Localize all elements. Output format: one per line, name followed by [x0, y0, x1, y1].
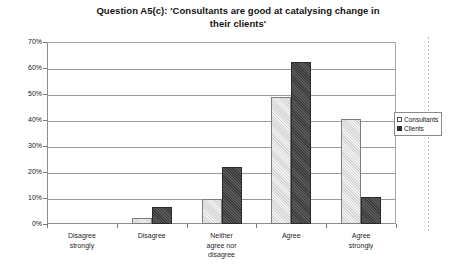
legend-item-consultants[interactable]: Consultants [397, 115, 438, 124]
chart-title-line-1: Question A5(c): 'Consultants are good at… [96, 5, 379, 16]
x-axis-category-label-line: strongly [349, 242, 374, 249]
chart-legend: ConsultantsClients [394, 112, 442, 136]
x-axis-tick-mark [117, 224, 118, 228]
legend-label: Clients [404, 125, 424, 133]
y-axis-tick-mark [43, 146, 47, 147]
bar-consultants-2 [202, 199, 222, 224]
bar-consultants-3 [271, 97, 291, 224]
chart-title: Question A5(c): 'Consultants are good at… [52, 4, 424, 30]
x-axis-category-label-line: Agree [352, 232, 371, 239]
gridline [48, 69, 395, 70]
y-axis-tick-mark [43, 68, 47, 69]
bar-clients-1 [152, 207, 172, 224]
x-axis-category-label: Agreestrongly [326, 231, 396, 250]
x-axis-tick-mark [396, 224, 397, 228]
y-axis-tick-mark [43, 172, 47, 173]
y-axis-tick-label: 0% [2, 220, 42, 228]
chart-figure: Question A5(c): 'Consultants are good at… [0, 0, 476, 273]
x-axis-category-label: Neitheragree nordisagree [187, 231, 257, 260]
y-axis-tick-mark [43, 94, 47, 95]
y-axis-tick-mark [43, 198, 47, 199]
x-axis-category-label: Disagree [117, 231, 187, 241]
y-axis-tick-label: 60% [2, 64, 42, 72]
x-axis-category-label: Agree [256, 231, 326, 241]
gridline [48, 95, 395, 96]
y-axis-tick-label: 30% [2, 142, 42, 150]
x-axis-category-label-line: Neither [210, 232, 233, 239]
x-axis-category-label: Disagreestrongly [47, 231, 117, 250]
y-axis-tick-label: 50% [2, 90, 42, 98]
legend-swatch-consultants-icon [397, 117, 402, 122]
x-axis-category-label-line: disagree [208, 251, 235, 258]
bar-clients-3 [291, 62, 311, 225]
y-axis-tick-mark [43, 42, 47, 43]
x-axis-category-label-line: Disagree [138, 232, 166, 239]
y-axis-tick-label: 70% [2, 38, 42, 46]
bar-consultants-1 [132, 218, 152, 225]
y-axis-tick-mark [43, 120, 47, 121]
bar-consultants-4 [341, 119, 361, 224]
legend-item-clients[interactable]: Clients [397, 124, 438, 133]
y-axis-tick-label: 10% [2, 194, 42, 202]
x-axis-tick-mark [326, 224, 327, 228]
legend-swatch-clients-icon [397, 126, 402, 131]
x-axis-category-label-line: agree nor [207, 242, 237, 249]
bar-clients-2 [222, 167, 242, 224]
x-axis-category-label-line: strongly [70, 242, 95, 249]
x-axis-tick-mark [187, 224, 188, 228]
bar-clients-4 [361, 197, 381, 224]
x-axis-category-label-line: Disagree [68, 232, 96, 239]
x-axis-tick-mark [47, 224, 48, 228]
chart-title-line-2: their clients' [210, 18, 266, 29]
y-axis-tick-label: 40% [2, 116, 42, 124]
x-axis-category-label-line: Agree [282, 232, 301, 239]
y-axis-tick-label: 20% [2, 168, 42, 176]
x-axis-tick-mark [256, 224, 257, 228]
legend-label: Consultants [404, 116, 438, 124]
